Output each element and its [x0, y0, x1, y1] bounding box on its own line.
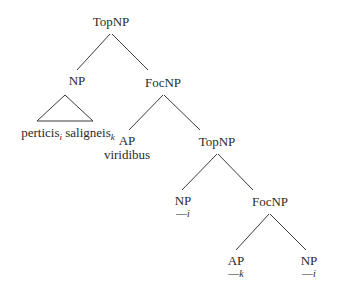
- node-label: AP: [228, 253, 245, 268]
- node-np-trace-i-2: NP —i: [301, 254, 318, 279]
- node-np-content: perticisi saligneisk: [21, 126, 115, 144]
- node-label: NP: [69, 73, 86, 88]
- edge-focnp2-np: [270, 214, 306, 250]
- edge-focnp2-ap: [236, 214, 269, 250]
- edge-focnp-ap: [129, 95, 163, 130]
- node-np: NP: [69, 74, 86, 88]
- edge-root-focnp: [112, 34, 148, 70]
- node-label: TopNP: [199, 134, 236, 149]
- node-np-trace-i: NP —i: [175, 194, 192, 219]
- node-label: FocNP: [252, 194, 288, 209]
- trace: —k: [228, 268, 245, 279]
- node-topnp-2: TopNP: [199, 135, 236, 149]
- tree-edges: [0, 0, 338, 296]
- node-topnp-root: TopNP: [93, 15, 130, 29]
- node-ap-trace-k: AP —k: [228, 254, 245, 279]
- edge-focnp-topnp: [164, 95, 200, 130]
- np-triangle: [37, 95, 93, 121]
- node-label: FocNP: [145, 75, 181, 90]
- edge-topnp2-focnp: [218, 154, 253, 190]
- node-label: NP: [301, 253, 318, 268]
- trace-dash: —: [228, 267, 239, 279]
- node-label: AP: [119, 133, 136, 148]
- word-viridibus: viridibus: [104, 148, 150, 162]
- edge-root-np: [77, 34, 110, 70]
- node-focnp: FocNP: [145, 76, 181, 90]
- trace-index: i: [187, 208, 190, 219]
- trace-dash: —: [302, 267, 313, 279]
- trace: —i: [301, 268, 318, 279]
- trace-index: i: [313, 268, 316, 279]
- trace: —i: [175, 208, 192, 219]
- trace-dash: —: [176, 207, 187, 219]
- trace-index: k: [239, 268, 243, 279]
- edge-topnp2-np: [182, 154, 217, 190]
- node-label: NP: [175, 193, 192, 208]
- node-ap: AP viridibus: [104, 134, 150, 162]
- node-label: TopNP: [93, 14, 130, 29]
- node-focnp-2: FocNP: [252, 195, 288, 209]
- word-perticis: perticis: [21, 125, 59, 140]
